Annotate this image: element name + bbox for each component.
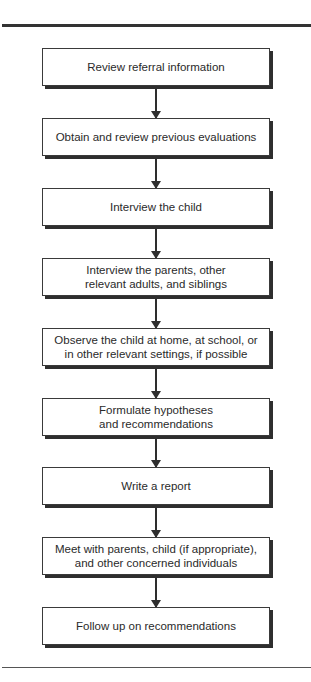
- step-follow-up: Follow up on recommendations: [42, 607, 270, 645]
- arrow-down-icon: [155, 158, 157, 188]
- step-formulate-hypotheses: Formulate hypotheses and recommendations: [42, 398, 270, 436]
- step-review-referral: Review referral information: [42, 48, 270, 86]
- arrow-down-icon: [155, 228, 157, 258]
- step-meet-with-parents: Meet with parents, child (if appropriate…: [42, 537, 270, 575]
- arrow-down-icon: [155, 577, 157, 607]
- step-write-report: Write a report: [42, 467, 270, 505]
- step-interview-child: Interview the child: [42, 188, 270, 226]
- step-observe-child: Observe the child at home, at school, or…: [42, 328, 270, 366]
- arrow-down-icon: [155, 507, 157, 537]
- step-interview-parents: Interview the parents, other relevant ad…: [42, 258, 270, 296]
- arrow-down-icon: [155, 438, 157, 467]
- arrow-down-icon: [155, 298, 157, 328]
- arrow-down-icon: [155, 88, 157, 118]
- flowchart: Review referral information Obtain and r…: [0, 0, 311, 682]
- bottom-rule: [2, 667, 311, 668]
- arrow-down-icon: [155, 368, 157, 398]
- step-obtain-previous-evaluations: Obtain and review previous evaluations: [42, 118, 270, 156]
